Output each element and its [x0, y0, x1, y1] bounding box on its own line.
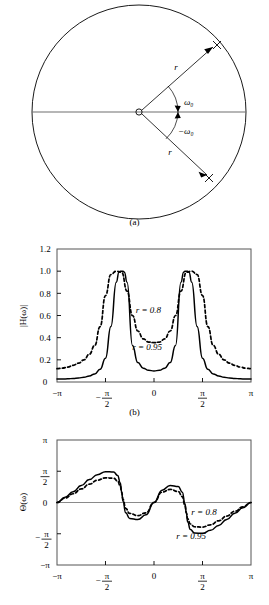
svg-text:−: − — [35, 532, 40, 542]
axis-tick-labels-b: −π−π20π2π00.20.40.60.81.01.2 — [39, 244, 253, 409]
radius-vector-upper — [142, 47, 213, 110]
caption-panel-b: (b) — [0, 407, 269, 417]
svg-text:0.6: 0.6 — [39, 311, 51, 321]
y-axis-title-c: Θ(ω) — [18, 493, 28, 511]
angle-arc-arrow-lower — [175, 112, 181, 118]
panel-phase-response: −π−π20π2π−π−π20π2π r = 0.8r = 0.95 Θ(ω) — [0, 430, 269, 605]
svg-text:π: π — [249, 388, 254, 398]
svg-text:π: π — [105, 571, 110, 581]
radius-vector-lower — [142, 114, 207, 175]
curve-annotation: r = 0.95 — [176, 531, 206, 541]
svg-text:−: − — [95, 392, 100, 402]
plot-frame-b — [57, 249, 251, 382]
radius-arrowhead-upper — [204, 47, 213, 54]
svg-text:π: π — [105, 388, 110, 398]
caption-panel-a: (a) — [0, 217, 269, 227]
angle-arc-arrow-upper — [175, 106, 181, 112]
svg-text:π: π — [43, 435, 48, 445]
radius-label-upper: r — [174, 62, 178, 72]
svg-text:π: π — [249, 571, 254, 581]
svg-text:−π: −π — [40, 560, 50, 570]
svg-text:0.4: 0.4 — [39, 333, 51, 343]
curves-b — [57, 271, 251, 379]
y-axis-title-b: |H(ω)| — [18, 305, 28, 327]
svg-text:π: π — [200, 571, 205, 581]
svg-text:−π: −π — [52, 571, 62, 581]
curve-dashed — [57, 271, 251, 369]
svg-text:0: 0 — [152, 571, 157, 581]
panel-pole-zero-plot: r r ω₀ −ω₀ — [0, 0, 269, 240]
curve-annotations-b: r = 0.8r = 0.95 — [132, 305, 162, 352]
pole-marker-upper — [213, 41, 221, 49]
magnitude-chart-svg: −π−π20π2π00.20.40.60.81.01.2 r = 0.8r = … — [0, 240, 269, 430]
svg-text:0.8: 0.8 — [39, 289, 51, 299]
svg-text:2: 2 — [105, 582, 110, 592]
svg-text:π: π — [43, 466, 48, 476]
curve-annotation: r = 0.95 — [132, 342, 162, 352]
svg-text:0: 0 — [43, 377, 48, 387]
pole-marker-lower — [205, 174, 213, 182]
angle-label-lower: −ω₀ — [178, 126, 194, 136]
svg-text:0: 0 — [43, 498, 48, 508]
svg-text:2: 2 — [200, 582, 205, 592]
svg-text:2: 2 — [44, 540, 49, 550]
svg-text:0: 0 — [152, 388, 157, 398]
svg-text:1.2: 1.2 — [39, 244, 50, 254]
svg-text:π: π — [200, 388, 205, 398]
pole-zero-svg: r r ω₀ −ω₀ — [0, 0, 269, 240]
radius-label-lower: r — [168, 147, 172, 157]
phase-chart-svg: −π−π20π2π−π−π20π2π r = 0.8r = 0.95 Θ(ω) — [0, 430, 269, 605]
angle-label-upper: ω₀ — [184, 97, 193, 107]
curve-solid — [57, 271, 251, 379]
svg-text:0.2: 0.2 — [39, 355, 50, 365]
curve-annotation: r = 0.8 — [136, 305, 162, 315]
svg-text:2: 2 — [43, 477, 48, 487]
panel-magnitude-response: −π−π20π2π00.20.40.60.81.01.2 r = 0.8r = … — [0, 240, 269, 430]
svg-text:π: π — [44, 529, 49, 539]
curve-annotation: r = 0.8 — [191, 507, 217, 517]
figure-root: r r ω₀ −ω₀ (a) −π−π20π2π00.20.40.60.81.0… — [0, 0, 269, 605]
svg-text:−: − — [95, 575, 100, 585]
svg-text:1.0: 1.0 — [39, 266, 51, 276]
svg-text:−π: −π — [52, 388, 62, 398]
